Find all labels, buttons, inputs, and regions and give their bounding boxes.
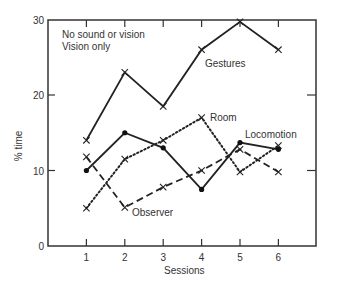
series-observer: [83, 146, 281, 211]
x-marker-icon: [83, 154, 89, 160]
x-marker-icon: [198, 114, 204, 120]
label-observer: Observer: [132, 207, 174, 218]
data-series: [83, 19, 281, 212]
dot-marker-icon: [84, 168, 89, 173]
x-tick-label: 2: [122, 252, 128, 263]
label-locomotion: Locomotion: [245, 129, 297, 140]
x-marker-icon: [198, 47, 204, 53]
x-marker-icon: [275, 47, 281, 53]
x-marker-icon: [160, 137, 166, 143]
x-marker-icon: [83, 137, 89, 143]
y-axis-title: % time: [13, 130, 24, 161]
dot-marker-icon: [199, 187, 204, 192]
x-tick-label: 1: [84, 252, 90, 263]
x-tick-label: 3: [160, 252, 166, 263]
x-tick-label: 5: [237, 252, 243, 263]
x-marker-icon: [160, 184, 166, 190]
x-marker-icon: [237, 146, 243, 152]
x-axis-title: Sessions: [164, 265, 205, 276]
label-room: Room: [210, 112, 237, 123]
x-marker-icon: [122, 69, 128, 75]
legend-line-2: Vision only: [62, 41, 110, 52]
dot-marker-icon: [276, 147, 281, 152]
x-marker-icon: [160, 103, 166, 109]
label-gestures: Gestures: [205, 58, 246, 69]
x-marker-icon: [275, 169, 281, 175]
x-tick-labels: 123456: [84, 252, 282, 263]
legend-line-1: No sound or vision: [62, 29, 145, 40]
x-marker-icon: [122, 204, 128, 210]
x-marker-icon: [83, 205, 89, 211]
x-tick-label: 4: [199, 252, 205, 263]
line-chart: 0102030 123456 No sound or vision Vision…: [0, 0, 338, 288]
y-tick-label: 20: [33, 90, 45, 101]
dot-marker-icon: [122, 130, 127, 135]
y-tick-label: 0: [38, 241, 44, 252]
dot-marker-icon: [237, 140, 242, 145]
dot-marker-icon: [161, 145, 166, 150]
x-marker-icon: [237, 169, 243, 175]
y-tick-labels: 0102030: [33, 15, 45, 253]
y-tick-label: 10: [33, 166, 45, 177]
x-tick-label: 6: [276, 252, 282, 263]
y-tick-label: 30: [33, 15, 45, 26]
